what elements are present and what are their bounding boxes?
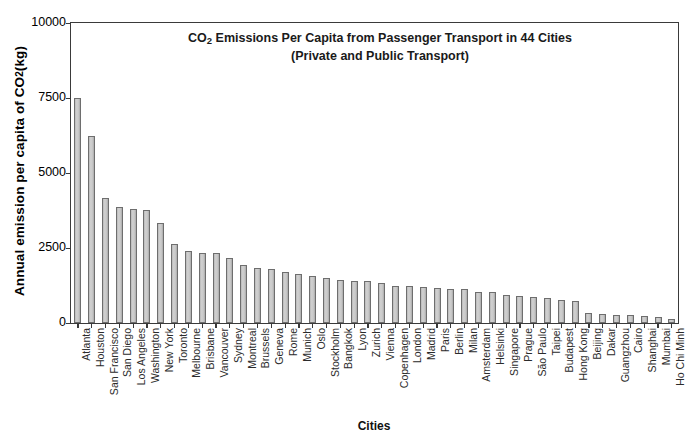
bar — [420, 287, 427, 323]
bar — [558, 300, 565, 323]
y-axis-tick-mark — [66, 98, 71, 99]
x-axis-tick-slot: Copenhagen — [388, 328, 402, 414]
bar-slot — [209, 23, 223, 323]
x-axis-tick-slot: Geneva — [263, 328, 277, 414]
bar — [116, 207, 123, 323]
bar — [143, 210, 150, 323]
plot-right-spine — [678, 22, 679, 323]
bar — [378, 283, 385, 323]
x-axis-tick-slot: Zurich — [360, 328, 374, 414]
bar — [599, 314, 606, 323]
bar — [254, 268, 261, 323]
bar-slot — [99, 23, 113, 323]
bar-slot — [513, 23, 527, 323]
bar-slot — [596, 23, 610, 323]
bar — [171, 244, 178, 323]
bar — [585, 313, 592, 324]
bar — [130, 209, 137, 323]
bar-slot — [416, 23, 430, 323]
x-axis-tick-slot: Sydney — [222, 328, 236, 414]
bar — [213, 253, 220, 323]
bar — [489, 292, 496, 323]
x-axis-tick-slot: Singapore — [498, 328, 512, 414]
x-axis-tick-slot: San Diego — [111, 328, 125, 414]
y-axis-tick-label: 10000 — [14, 16, 66, 29]
bar — [516, 296, 523, 323]
x-axis-tick-slot: Los Angeles — [125, 328, 139, 414]
bar — [337, 280, 344, 323]
bar — [544, 298, 551, 323]
x-axis-ticks: AtlantaHoustonSan FranciscoSan DiegoLos … — [70, 328, 678, 414]
bar — [530, 297, 537, 323]
y-axis-ticks: 100007500500025000 — [0, 0, 66, 443]
bar — [461, 289, 468, 323]
bar-slot — [458, 23, 472, 323]
x-axis-tick-slot: New York — [153, 328, 167, 414]
x-axis-tick-slot: Brussels — [250, 328, 264, 414]
x-axis-tick-slot: Helsinki — [484, 328, 498, 414]
x-axis-tick-label: Ho Chi Minh — [675, 328, 686, 386]
y-axis-tick-mark — [66, 173, 71, 174]
bar-slot — [306, 23, 320, 323]
bar-slot — [237, 23, 251, 323]
bar — [613, 315, 620, 323]
bar — [199, 253, 206, 324]
bar-slot — [375, 23, 389, 323]
x-axis-tick-slot: Oslo — [305, 328, 319, 414]
bar-slot — [527, 23, 541, 323]
y-axis-tick-label: 5000 — [14, 166, 66, 179]
x-axis-tick-slot: Washington — [139, 328, 153, 414]
x-axis-title: Cities — [70, 419, 678, 433]
x-axis-tick-slot: Atlanta — [70, 328, 84, 414]
chart-page: Annual emission per capita of CO2 (kg) 1… — [0, 0, 694, 443]
x-axis-tick-slot: Berlin — [443, 328, 457, 414]
y-axis-tick-mark — [66, 323, 71, 324]
x-axis-tick-slot: Guangzhou — [609, 328, 623, 414]
bar — [282, 272, 289, 323]
x-axis-tick-slot: Ho Chi Minh — [664, 328, 678, 414]
bar — [295, 274, 302, 323]
bar — [102, 198, 109, 323]
bar — [475, 292, 482, 324]
bar-slot — [71, 23, 85, 323]
bar — [406, 286, 413, 323]
bar — [240, 265, 247, 323]
bar-slot — [168, 23, 182, 323]
bar — [268, 269, 275, 323]
x-axis-tick-slot: Montreal — [236, 328, 250, 414]
x-axis-tick-slot: Paris — [429, 328, 443, 414]
y-axis-tick-label: 7500 — [14, 91, 66, 104]
x-axis-tick-slot: Dakar — [595, 328, 609, 414]
y-axis-tick-label: 0 — [14, 316, 66, 329]
y-axis-tick-mark — [66, 23, 71, 24]
bar-series — [71, 23, 679, 323]
bar — [392, 286, 399, 324]
x-axis-tick-slot: Vienna — [374, 328, 388, 414]
x-axis-tick-slot: San Francisco — [98, 328, 112, 414]
bar-slot — [403, 23, 417, 323]
bar — [185, 251, 192, 323]
bar-slot — [665, 23, 679, 323]
x-axis-tick-slot: Houston — [84, 328, 98, 414]
x-axis-tick-slot: São Paulo — [526, 328, 540, 414]
bar-slot — [610, 23, 624, 323]
x-axis-tick-slot: Bangkok — [332, 328, 346, 414]
bar — [74, 98, 81, 323]
bar-slot — [347, 23, 361, 323]
bar-slot — [85, 23, 99, 323]
bar-slot — [389, 23, 403, 323]
bar — [309, 276, 316, 323]
bar-slot — [292, 23, 306, 323]
x-axis-tick-slot: Madrid — [415, 328, 429, 414]
x-axis-tick-slot: Mumbai — [650, 328, 664, 414]
bar-slot — [361, 23, 375, 323]
bar-slot — [112, 23, 126, 323]
x-axis-tick-slot: Hong Kong — [567, 328, 581, 414]
bar-slot — [444, 23, 458, 323]
bar-slot — [320, 23, 334, 323]
bar-slot — [195, 23, 209, 323]
x-axis-tick-slot: Toronto — [167, 328, 181, 414]
bar — [323, 278, 330, 323]
x-axis-tick-slot: Rome — [277, 328, 291, 414]
x-axis-tick-slot: Taipei — [540, 328, 554, 414]
